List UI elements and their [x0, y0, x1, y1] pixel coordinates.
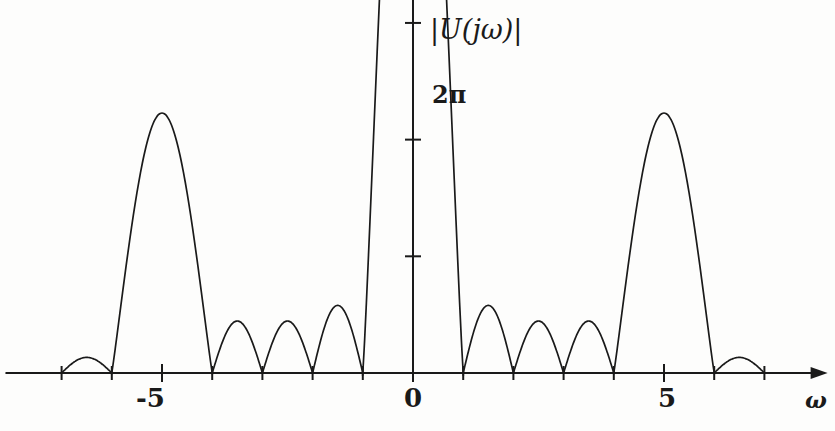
x-tick-label-neg5: -5: [136, 385, 165, 411]
axis-layer: [6, 0, 827, 382]
x-axis-title: ω: [805, 388, 827, 411]
spectrum-plot: [0, 0, 835, 431]
x-tick-label-pos5: 5: [658, 385, 676, 411]
y-axis-peak-label: 2π: [432, 83, 466, 107]
y-axis-title: |U(jω)|: [430, 16, 522, 43]
x-tick-label-zero: 0: [404, 385, 422, 411]
figure-canvas: |U(jω)| 2π -5 0 5 ω: [0, 0, 835, 431]
